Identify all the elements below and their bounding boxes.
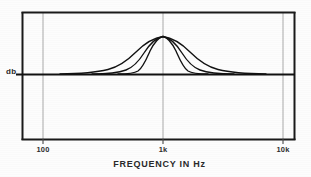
- x-axis-title: FREQUENCY IN Hz: [4, 159, 311, 169]
- x-tick-label-10k: 10k: [276, 145, 289, 154]
- x-tick-label-100: 100: [36, 145, 49, 154]
- equalizer-response-figure: db 100 1k 10k FREQUENCY IN Hz: [0, 0, 311, 177]
- grid-lines: [43, 12, 283, 144]
- plot-frame: [22, 12, 296, 140]
- x-tick-label-1k: 1k: [159, 145, 168, 154]
- y-axis-label: db: [6, 67, 16, 76]
